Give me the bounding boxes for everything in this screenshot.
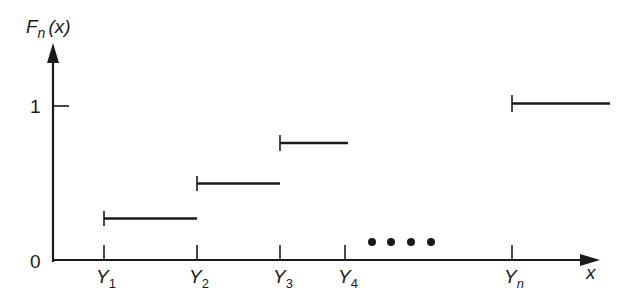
step-segment-n	[512, 95, 610, 112]
x-tick-label-yn: Yn	[504, 266, 524, 291]
x-axis-label: x	[585, 262, 597, 283]
ellipsis-dots	[368, 238, 435, 246]
x-tick-label-y3: Y3	[273, 266, 293, 291]
y-tick-label-zero: 0	[30, 251, 41, 272]
x-tick-label-y1: Y1	[96, 266, 116, 291]
x-tick-label-y4: Y4	[338, 266, 358, 291]
y-axis-arrow-icon	[47, 43, 59, 63]
step-segment-1	[104, 211, 197, 226]
step-segment-3	[280, 135, 348, 151]
y-tick-label-one: 1	[30, 96, 41, 117]
step-function-diagram: Fn(x) 1 0 Y1 Y2 Y3 Y4 Yn x	[0, 0, 632, 306]
step-segment-2	[197, 176, 280, 191]
y-axis-label: Fn(x)	[26, 16, 71, 41]
x-tick-label-y2: Y2	[189, 266, 209, 291]
